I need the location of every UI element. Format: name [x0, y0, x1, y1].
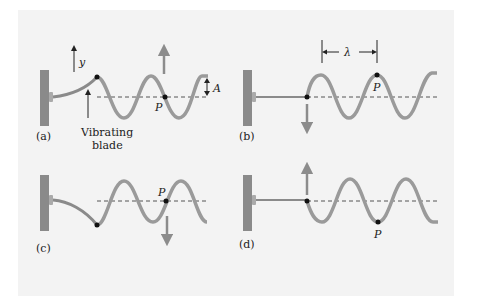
- wall: [40, 70, 49, 126]
- wavelength-label: λ: [343, 46, 351, 59]
- amplitude-label: A: [212, 82, 221, 95]
- point-p: [376, 220, 381, 225]
- string-end-point: [305, 199, 310, 204]
- panel-d: P (d): [239, 168, 438, 251]
- panel-label-b: (b): [239, 130, 255, 143]
- lambda-arrowhead-left: [322, 50, 327, 55]
- wall: [243, 175, 252, 231]
- lambda-arrowhead-right: [372, 50, 377, 55]
- y-axis-label: y: [78, 56, 86, 69]
- wall: [40, 175, 49, 231]
- vibrating-blade: [53, 200, 97, 225]
- amplitude-arrow-up: [204, 78, 210, 83]
- wave-diagram: P y Vibrating blade A (a) P λ: [0, 0, 477, 302]
- string-wave: [307, 73, 437, 118]
- vibrating-label: Vibrating: [80, 126, 133, 139]
- vibrating-blade: [53, 77, 97, 97]
- point-p: [163, 95, 168, 100]
- panel-c: P (c): [36, 175, 208, 255]
- panel-b: P λ (b): [239, 40, 438, 143]
- string-wave: [97, 181, 207, 225]
- string-end-point: [95, 75, 100, 80]
- wall: [243, 70, 252, 126]
- point-p-label: P: [154, 101, 163, 114]
- string-end-point: [95, 223, 100, 228]
- clamp: [252, 92, 256, 102]
- clamp: [49, 92, 53, 102]
- point-p-label: P: [373, 228, 382, 241]
- panel-a: P y Vibrating blade A (a): [36, 48, 221, 152]
- point-p-label: P: [372, 81, 381, 94]
- panel-label-c: (c): [36, 242, 51, 255]
- blade-label: blade: [92, 139, 123, 152]
- clamp: [252, 195, 256, 205]
- clamp: [49, 195, 53, 205]
- point-p: [375, 73, 380, 78]
- panel-label-d: (d): [239, 238, 255, 251]
- point-p-label: P: [157, 186, 166, 199]
- panel-label-a: (a): [36, 130, 51, 143]
- point-p: [164, 199, 169, 204]
- amplitude-arrow-down: [204, 91, 210, 96]
- string-end-point: [305, 95, 310, 100]
